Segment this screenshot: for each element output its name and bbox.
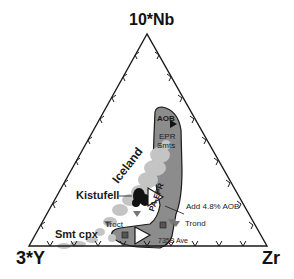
label-smts: Smts: [157, 142, 175, 150]
label-add-aob: Add 4.8% AOB: [186, 203, 239, 211]
apex-label-left: 3*Y: [16, 248, 45, 269]
label-kistufell: Kistufell: [76, 190, 119, 201]
label-trond: Trond: [185, 220, 206, 228]
label-735b-ave: 735B Ave: [158, 237, 188, 244]
label-epr: EPR: [159, 133, 175, 141]
apex-label-top: 10*Nb: [129, 11, 174, 29]
label-aob: AOB: [157, 115, 175, 123]
ternary-diagram: [0, 0, 294, 279]
ternary-frame: [29, 34, 267, 246]
label-smt-cpx: Smt cpx: [55, 229, 98, 240]
label-troct: Troct: [105, 221, 123, 229]
apex-label-right: Zr: [262, 248, 280, 269]
